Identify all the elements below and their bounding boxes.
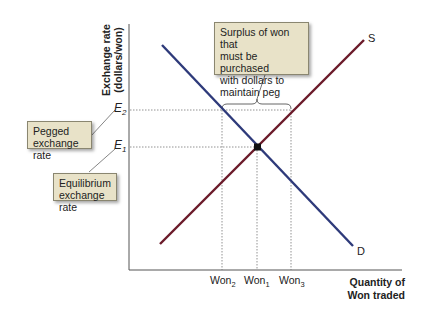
tick-won2-sub: 2 — [231, 280, 235, 289]
equilibrium-leader — [89, 149, 115, 172]
tick-won2: Won2 — [210, 274, 236, 289]
surplus-callout: Surplus of won that must be purchased wi… — [214, 22, 309, 75]
tick-won3-sub: 3 — [300, 280, 304, 289]
tick-won1: Won1 — [244, 274, 270, 289]
tick-e2: E2 — [114, 101, 126, 117]
tick-won1-sub: 1 — [265, 280, 269, 289]
tick-e2-base: E — [114, 101, 122, 115]
x-axis-label-line1: Quantity of — [345, 276, 405, 289]
pegged-callout-line1: Pegged — [33, 125, 86, 137]
tick-e1-base: E — [114, 138, 122, 152]
pegged-callout-line2: exchange rate — [33, 137, 86, 161]
y-axis-label-line2: (dollars/won) — [112, 19, 124, 101]
tick-won2-base: Won — [210, 274, 231, 286]
surplus-callout-line1: Surplus of won that — [220, 26, 303, 50]
equilibrium-callout-line1: Equilibrium — [59, 177, 111, 189]
surplus-callout-line4: maintain peg — [220, 86, 303, 98]
demand-label: D — [357, 245, 365, 257]
equilibrium-point — [254, 144, 261, 151]
supply-label: S — [368, 32, 375, 44]
pegged-leader — [91, 110, 115, 136]
surplus-brace — [222, 99, 291, 109]
equilibrium-callout-line2: exchange rate — [59, 189, 111, 213]
x-axis-label: Quantity of Won traded — [345, 276, 405, 302]
tick-won3: Won3 — [279, 274, 305, 289]
surplus-callout-line2: must be purchased — [220, 50, 303, 74]
y-axis-label: Exchange rate (dollars/won) — [97, 22, 127, 102]
x-axis-label-line2: Won traded — [345, 289, 405, 302]
tick-e1-sub: 1 — [122, 145, 126, 154]
tick-won1-base: Won — [244, 274, 265, 286]
surplus-callout-line3: with dollars to — [220, 74, 303, 86]
pegged-callout: Pegged exchange rate — [27, 121, 92, 149]
tick-e1: E1 — [114, 138, 126, 154]
tick-e2-sub: 2 — [122, 108, 126, 117]
y-axis-label-line1: Exchange rate — [100, 19, 112, 101]
tick-won3-base: Won — [279, 274, 300, 286]
equilibrium-callout: Equilibrium exchange rate — [53, 173, 117, 201]
